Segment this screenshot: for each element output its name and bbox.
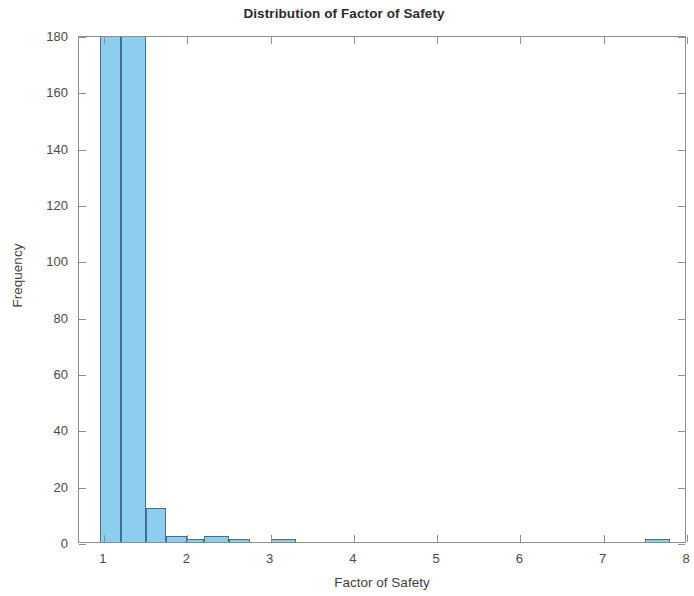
y-axis-tick-right (678, 319, 685, 320)
histogram-bar (229, 539, 250, 542)
x-axis-tick-top (354, 37, 355, 44)
y-axis-tick-label: 60 (28, 367, 68, 382)
y-axis-tick-label: 40 (28, 423, 68, 438)
x-axis-tick-label: 2 (171, 551, 201, 566)
x-axis-tick (520, 535, 521, 542)
x-axis-tick-label: 6 (504, 551, 534, 566)
y-axis-tick-label: 160 (28, 85, 68, 100)
x-axis-tick-label: 5 (421, 551, 451, 566)
x-axis-tick-top (520, 37, 521, 44)
y-axis-tick-right (678, 488, 685, 489)
chart-title: Distribution of Factor of Safety (0, 6, 688, 21)
histogram-bar (100, 37, 121, 542)
y-axis-tick-right (678, 375, 685, 376)
histogram-bar (187, 539, 204, 542)
x-axis-tick (104, 535, 105, 542)
histogram-bar (166, 536, 187, 542)
x-axis-tick-top (604, 37, 605, 44)
histogram-bar (146, 508, 167, 542)
y-axis-tick (79, 262, 86, 263)
y-axis-tick-label: 180 (28, 29, 68, 44)
y-axis-tick (79, 319, 86, 320)
x-axis-tick-top (271, 37, 272, 44)
x-axis-tick (604, 535, 605, 542)
x-axis-tick-label: 4 (338, 551, 368, 566)
x-axis-tick-label: 1 (88, 551, 118, 566)
y-axis-tick (79, 544, 86, 545)
x-axis-tick (187, 535, 188, 542)
bars-layer (79, 37, 685, 542)
y-axis-tick (79, 431, 86, 432)
x-axis-tick-top (437, 37, 438, 44)
histogram-bar (271, 539, 296, 542)
x-axis-tick (271, 535, 272, 542)
y-axis-tick-label: 80 (28, 310, 68, 325)
y-axis-tick-right (678, 431, 685, 432)
y-axis-tick-label: 120 (28, 198, 68, 213)
x-axis-tick (687, 535, 688, 542)
histogram-bar (204, 536, 229, 542)
y-axis-tick (79, 150, 86, 151)
histogram-bar (121, 37, 146, 542)
y-axis-tick-right (678, 262, 685, 263)
x-axis-tick-label: 3 (255, 551, 285, 566)
y-axis-tick-label: 100 (28, 254, 68, 269)
y-axis-tick (79, 488, 86, 489)
y-axis-tick-right (678, 93, 685, 94)
x-axis-tick (354, 535, 355, 542)
y-axis-tick (79, 206, 86, 207)
x-axis-tick-label: 7 (588, 551, 618, 566)
x-axis-tick-top (687, 37, 688, 44)
y-axis-tick (79, 37, 86, 38)
y-axis-tick-right (678, 544, 685, 545)
plot-area (78, 36, 686, 543)
x-axis-tick-label: 8 (671, 551, 694, 566)
x-axis-tick (437, 535, 438, 542)
y-axis-tick-right (678, 206, 685, 207)
x-axis-tick-top (187, 37, 188, 44)
y-axis-tick-label: 140 (28, 141, 68, 156)
x-axis-tick-top (104, 37, 105, 44)
x-axis-title: Factor of Safety (78, 575, 686, 590)
y-axis-tick-label: 20 (28, 479, 68, 494)
y-axis-tick (79, 375, 86, 376)
y-axis-tick-right (678, 37, 685, 38)
y-axis-title: Frequency (10, 176, 25, 376)
histogram-bar (645, 539, 670, 542)
y-axis-tick (79, 93, 86, 94)
y-axis-tick-label: 0 (28, 536, 68, 551)
y-axis-tick-right (678, 150, 685, 151)
